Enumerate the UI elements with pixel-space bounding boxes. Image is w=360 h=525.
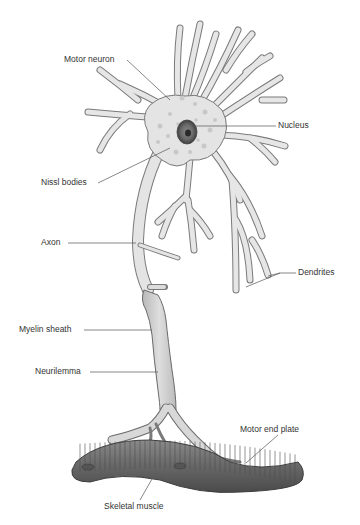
label-neurilemma: Neurilemma [35,367,81,376]
label-motor-neuron: Motor neuron [64,55,115,64]
label-myelin-sheath: Myelin sheath [19,325,71,334]
label-nissl-bodies: Nissl bodies [41,178,87,187]
label-dendrites: Dendrites [298,268,334,277]
skeletal-muscle [72,440,304,493]
label-nucleus: Nucleus [278,121,309,130]
myelin-sheath [142,290,176,410]
neuron-diagram [0,0,360,525]
dendrites-lower [158,150,268,290]
muscle-nucleus [174,463,186,469]
muscle-nucleus [82,464,94,470]
label-motor-end-plate: Motor end plate [240,425,299,434]
label-skeletal-muscle: Skeletal muscle [104,502,164,511]
nucleus [177,120,197,144]
label-axon: Axon [41,238,60,247]
